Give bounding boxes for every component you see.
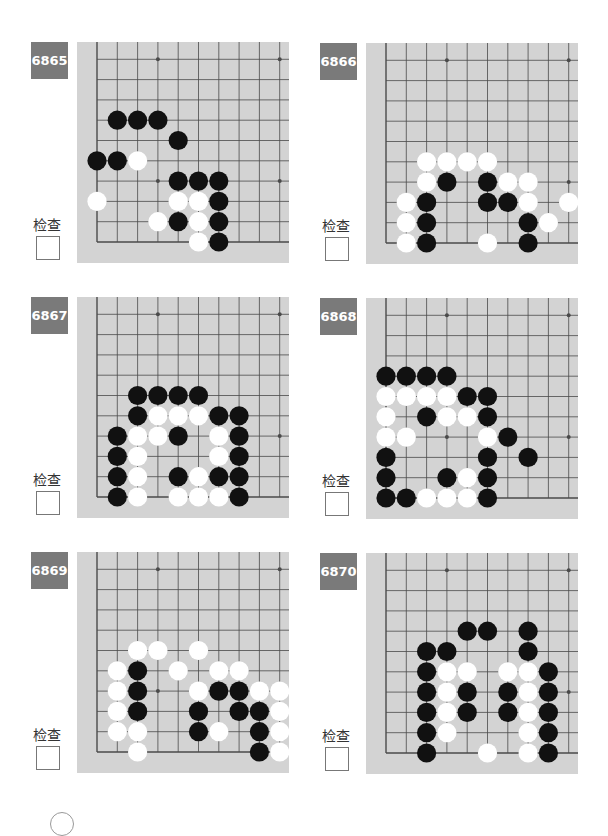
white-stone [189, 232, 208, 251]
black-stone [189, 172, 208, 191]
page-number-circle [50, 812, 74, 836]
black-stone [209, 682, 228, 701]
white-stone [128, 427, 147, 446]
white-stone [270, 742, 289, 761]
black-stone [458, 387, 477, 406]
white-stone [458, 468, 477, 487]
white-stone [437, 662, 456, 681]
black-stone [417, 743, 436, 762]
black-stone [169, 172, 188, 191]
white-stone [209, 722, 228, 741]
black-stone [169, 386, 188, 405]
black-stone [519, 622, 538, 641]
white-stone [397, 428, 416, 447]
black-stone [230, 487, 249, 506]
problem-6865: 6865 检查 [31, 42, 321, 282]
black-stone [148, 386, 167, 405]
white-stone [189, 212, 208, 231]
white-stone [376, 407, 395, 426]
black-stone [498, 428, 517, 447]
white-stone [128, 447, 147, 466]
white-stone [478, 152, 497, 171]
white-stone [437, 152, 456, 171]
black-stone [458, 622, 477, 641]
black-stone [230, 447, 249, 466]
problem-number-badge: 6870 [320, 553, 357, 590]
white-stone [108, 722, 127, 741]
white-stone [397, 213, 416, 232]
black-stone [437, 367, 456, 386]
white-stone [148, 406, 167, 425]
go-board [77, 42, 289, 263]
black-stone [417, 233, 436, 252]
problem-6869: 6869 检查 [31, 552, 321, 792]
black-stone [417, 703, 436, 722]
black-stone [376, 448, 395, 467]
check-box[interactable] [325, 237, 349, 261]
black-stone [397, 488, 416, 507]
white-stone [437, 407, 456, 426]
check-box[interactable] [36, 746, 60, 770]
black-stone [250, 722, 269, 741]
check-box[interactable] [36, 236, 60, 260]
white-stone [128, 467, 147, 486]
black-stone [539, 723, 558, 742]
black-stone [376, 488, 395, 507]
black-stone [209, 467, 228, 486]
black-stone [539, 743, 558, 762]
white-stone [458, 662, 477, 681]
black-stone [230, 702, 249, 721]
check-label: 检查 [322, 215, 350, 235]
go-board [366, 43, 578, 264]
white-stone [519, 723, 538, 742]
white-stone [148, 212, 167, 231]
white-stone [458, 488, 477, 507]
problem-6870: 6870 检查 [320, 553, 608, 793]
black-stone [539, 683, 558, 702]
black-stone [417, 367, 436, 386]
white-stone [397, 193, 416, 212]
check-box[interactable] [325, 747, 349, 771]
white-stone [209, 427, 228, 446]
problem-number-badge: 6869 [31, 552, 68, 589]
problem-6867: 6867 检查 [31, 297, 321, 537]
black-stone [128, 661, 147, 680]
black-stone [128, 386, 147, 405]
go-board [366, 298, 578, 519]
white-stone [417, 488, 436, 507]
white-stone [128, 722, 147, 741]
problem-number-badge: 6866 [320, 43, 357, 80]
white-stone [498, 173, 517, 192]
black-stone [108, 111, 127, 130]
check-box[interactable] [36, 491, 60, 515]
black-stone [458, 683, 477, 702]
black-stone [478, 173, 497, 192]
white-stone [189, 192, 208, 211]
problem-6866: 6866 检查 [320, 43, 608, 283]
black-stone [478, 468, 497, 487]
black-stone [250, 742, 269, 761]
white-stone [437, 683, 456, 702]
white-stone [270, 682, 289, 701]
white-stone [397, 387, 416, 406]
black-stone [169, 427, 188, 446]
black-stone [417, 642, 436, 661]
problem-6868: 6868 检查 [320, 298, 608, 538]
white-stone [189, 406, 208, 425]
white-stone [437, 387, 456, 406]
white-stone [209, 661, 228, 680]
white-stone [458, 152, 477, 171]
white-stone [478, 233, 497, 252]
white-stone [519, 703, 538, 722]
white-stone [437, 703, 456, 722]
white-stone [417, 387, 436, 406]
black-stone [417, 723, 436, 742]
black-stone [169, 212, 188, 231]
white-stone [148, 427, 167, 446]
black-stone [519, 642, 538, 661]
white-stone [250, 682, 269, 701]
white-stone [519, 173, 538, 192]
white-stone [539, 213, 558, 232]
check-box[interactable] [325, 492, 349, 516]
white-stone [209, 447, 228, 466]
